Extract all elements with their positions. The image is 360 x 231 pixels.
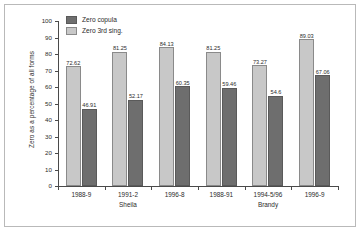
x-axis-label: 1991-2 [105,191,152,198]
speaker-label: Brandy [198,201,338,208]
plot-area: 72.6246.9181.2552.1784.1360.3581.2559.46… [58,21,338,186]
bar-value-label: 72.62 [66,60,80,66]
x-axis-separator-tick [245,186,246,190]
y-axis-tick-label: 0 [0,182,52,189]
legend-label-zero-copula: Zero copula [82,16,117,23]
y-axis-tick-label: 30 [0,133,52,140]
bar-value-label: 84.13 [160,41,174,47]
x-axis-separator-tick [151,186,152,190]
bar-value-label: 81.25 [113,45,127,51]
bar-group: 81.2552.17 [105,21,152,186]
bar-zero-3rd-sing[interactable]: 84.13 [159,47,174,186]
y-axis-tick-label: 40 [0,116,52,123]
bar-group: 73.2754.6 [245,21,292,186]
bar-group: 84.1360.35 [151,21,198,186]
chart-legend: Zero copula Zero 3rd sing. [66,15,123,37]
y-axis-tick-label: 10 [0,166,52,173]
bar-value-label: 67.06 [316,69,330,75]
chart-figure: Zero as a percentage of all forms 100908… [0,0,360,231]
bar-zero-3rd-sing[interactable]: 73.27 [252,65,267,186]
bar-group: 81.2559.46 [198,21,245,186]
x-axis-label: 1988-91 [198,191,245,198]
y-axis-tick-label: 70 [0,67,52,74]
bar-zero-copula[interactable]: 52.17 [128,100,143,186]
legend-swatch-icon-zero-copula [66,16,77,24]
bar-value-label: 46.91 [82,102,96,108]
y-axis-tick-label: 80 [0,50,52,57]
x-axis-separator-tick [198,186,199,190]
bar-value-label: 59.46 [222,81,236,87]
legend-swatch-icon-zero-3rd-sing [66,27,77,35]
bar-zero-copula[interactable]: 67.06 [315,75,330,186]
legend-item-zero-copula: Zero copula [66,15,123,24]
x-axis-separator-tick [291,186,292,190]
bar-group: 89.0367.06 [291,21,338,186]
x-axis-label: 1988-9 [58,191,105,198]
y-axis-tick-label: 90 [0,34,52,41]
y-axis-tick-label: 20 [0,149,52,156]
y-axis-tick-label: 100 [0,17,52,24]
x-axis-separator-tick [105,186,106,190]
y-axis-tick-label: 60 [0,83,52,90]
legend-item-zero-3rd-sing: Zero 3rd sing. [66,26,123,35]
bar-zero-copula[interactable]: 59.46 [222,88,237,186]
bar-value-label: 73.27 [253,59,267,65]
x-axis-label: 1996-8 [151,191,198,198]
bar-group: 72.6246.91 [58,21,105,186]
y-axis-tick-label: 50 [0,100,52,107]
bar-value-label: 52.17 [129,93,143,99]
bar-zero-3rd-sing[interactable]: 81.25 [206,52,221,186]
bar-value-label: 81.25 [206,45,220,51]
bar-zero-copula[interactable]: 46.91 [82,109,97,186]
bar-value-label: 60.35 [176,80,190,86]
x-axis-label: 1994-5/96 [245,191,292,198]
bar-zero-copula[interactable]: 54.6 [268,96,283,186]
x-axis-separator-tick [338,186,339,190]
x-axis-separator-tick [58,186,59,190]
x-axis-label: 1996-9 [291,191,338,198]
legend-label-zero-3rd-sing: Zero 3rd sing. [82,27,123,34]
bar-value-label: 54.6 [271,89,282,95]
speaker-label: Sheila [58,201,198,208]
bar-zero-3rd-sing[interactable]: 89.03 [299,39,314,186]
bar-zero-3rd-sing[interactable]: 72.62 [66,66,81,186]
bar-zero-3rd-sing[interactable]: 81.25 [112,52,127,186]
bar-value-label: 89.03 [300,33,314,39]
bar-zero-copula[interactable]: 60.35 [175,86,190,186]
